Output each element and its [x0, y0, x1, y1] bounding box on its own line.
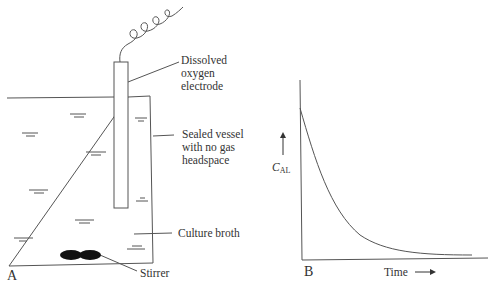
panel-letter-b: B [304, 264, 313, 280]
y-label-main: C [272, 161, 280, 173]
right-arrow-icon [415, 269, 436, 275]
x-axis [302, 258, 488, 260]
broth-leader [134, 233, 172, 234]
broth-label: Culture broth [178, 227, 240, 240]
vessel-leader [153, 135, 174, 136]
oxygen-electrode [114, 62, 128, 208]
panel-letter-a: A [7, 268, 17, 284]
electrode-label-line: Dissolved [181, 54, 227, 67]
stirrer-bar-icon [60, 250, 101, 260]
electrode-wire-coil-icon [120, 7, 183, 62]
decay-curve [300, 108, 472, 255]
vessel-label-line: headspace [182, 154, 244, 167]
electrode-label: Dissolved oxygen electrode [181, 54, 227, 93]
vessel-label-line: Sealed vessel [182, 128, 244, 141]
y-axis [300, 80, 302, 260]
electrode-label-line: electrode [181, 80, 227, 93]
stirrer-label: Stirrer [140, 267, 169, 280]
vessel-label: Sealed vessel with no gas headspace [182, 128, 244, 167]
vessel-label-line: with no gas [182, 141, 244, 154]
electrode-leader [128, 62, 179, 82]
sealed-vessel [7, 96, 153, 266]
diagram-canvas [0, 0, 494, 286]
x-axis-label: Time [384, 266, 408, 279]
electrode-label-line: oxygen [181, 67, 227, 80]
up-arrow-icon [280, 132, 286, 155]
y-label-sub: AL [280, 166, 291, 175]
y-axis-label: CAL [272, 161, 290, 177]
